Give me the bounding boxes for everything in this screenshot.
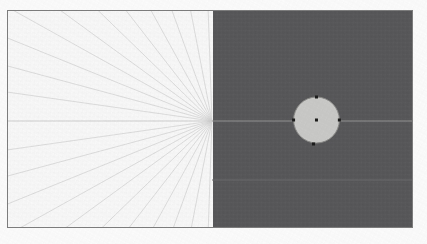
drawing-frame[interactable]: [7, 10, 413, 228]
construction-line-13: [8, 121, 212, 227]
screenshot-root: [0, 0, 427, 244]
construction-line-9: [8, 36, 212, 121]
construction-line-15: [8, 121, 212, 227]
construction-line-16: [8, 121, 212, 227]
construction-line-12: [8, 121, 212, 206]
handle-bottom[interactable]: [312, 143, 315, 146]
radial-construction-lines: [8, 11, 212, 227]
construction-line-18: [53, 121, 212, 227]
center-point-handle[interactable]: [315, 119, 318, 122]
handle-left[interactable]: [292, 119, 295, 122]
handle-right[interactable]: [338, 119, 341, 122]
vector-overlay: [8, 11, 412, 227]
construction-line-14: [8, 121, 212, 227]
construction-line-20: [149, 121, 212, 227]
construction-line-17: [10, 121, 212, 227]
handle-top[interactable]: [315, 96, 318, 99]
